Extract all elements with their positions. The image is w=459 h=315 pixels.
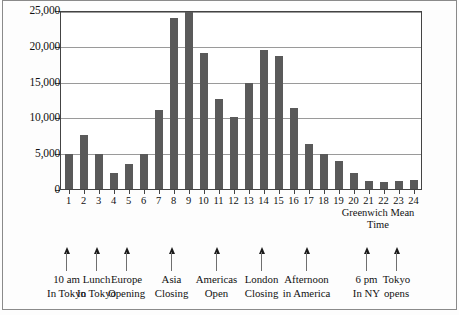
bar — [290, 108, 298, 189]
x-tick-mark — [249, 190, 250, 194]
arrow-up-icon — [362, 247, 432, 271]
x-tick-label: 24 — [403, 195, 425, 207]
x-tick-mark — [264, 190, 265, 194]
annotation-label: Tokyo opens — [362, 273, 432, 300]
x-tick-mark — [84, 190, 85, 194]
bar — [230, 117, 238, 189]
x-tick-mark — [414, 190, 415, 194]
arrow-shaft — [216, 252, 217, 271]
bar — [125, 164, 133, 189]
x-tick-mark — [354, 190, 355, 194]
x-tick-mark — [189, 190, 190, 194]
arrow-shaft — [306, 252, 307, 271]
bar — [155, 110, 163, 189]
arrow-shaft — [261, 252, 262, 271]
bar — [395, 181, 403, 189]
x-tick-mark — [204, 190, 205, 194]
y-tick-label: 0 — [8, 184, 60, 196]
x-tick-mark — [324, 190, 325, 194]
plot-area — [60, 11, 422, 190]
bar — [335, 161, 343, 189]
x-tick-mark — [279, 190, 280, 194]
y-axis: 05,00010,00015,00020,00025,000 — [3, 1, 60, 200]
bar — [275, 56, 283, 189]
arrow-shaft — [396, 252, 397, 271]
bar — [140, 154, 148, 189]
bar — [365, 181, 373, 189]
bar — [260, 50, 268, 189]
x-tick-mark — [174, 190, 175, 194]
bar — [215, 99, 223, 189]
bar-series — [61, 12, 421, 189]
x-axis-caption-line2: Time — [323, 219, 433, 231]
x-axis-caption-line1: Greenwich Mean — [323, 207, 433, 219]
x-tick-mark — [309, 190, 310, 194]
y-tick-label: 20,000 — [8, 41, 60, 53]
arrow-shaft — [126, 252, 127, 271]
bar — [170, 18, 178, 189]
y-tick-label: 25,000 — [8, 5, 60, 17]
bar — [110, 173, 118, 189]
bar — [95, 154, 103, 189]
x-tick-mark — [219, 190, 220, 194]
annotation-row: 10 am In TokyoLunch In TokyoEurope Openi… — [3, 247, 458, 309]
x-tick-mark — [384, 190, 385, 194]
bar — [305, 144, 313, 189]
y-tick-label: 15,000 — [8, 77, 60, 89]
bar — [350, 173, 358, 189]
x-tick-mark — [399, 190, 400, 194]
bar — [410, 180, 418, 189]
bar — [245, 83, 253, 189]
y-tick-label: 5,000 — [8, 148, 60, 160]
y-tick-label: 10,000 — [8, 112, 60, 124]
x-axis-caption: Greenwich Mean Time — [323, 207, 433, 230]
bar — [185, 12, 193, 189]
arrow-shaft — [171, 252, 172, 271]
x-tick-mark — [159, 190, 160, 194]
x-tick-mark — [144, 190, 145, 194]
chart-page: 05,00010,00015,00020,00025,000 123456789… — [0, 0, 459, 315]
annotation: Tokyo opens — [362, 247, 432, 300]
x-tick-mark — [234, 190, 235, 194]
bar — [65, 154, 73, 189]
x-tick-mark — [114, 190, 115, 194]
x-tick-mark — [129, 190, 130, 194]
x-tick-mark — [369, 190, 370, 194]
bar — [80, 135, 88, 189]
bar — [200, 53, 208, 189]
bar — [380, 182, 388, 189]
x-tick-mark — [294, 190, 295, 194]
figure-frame: 05,00010,00015,00020,00025,000 123456789… — [2, 0, 457, 310]
x-tick-mark — [339, 190, 340, 194]
bar — [320, 154, 328, 189]
x-tick-mark — [99, 190, 100, 194]
x-tick-mark — [69, 190, 70, 194]
